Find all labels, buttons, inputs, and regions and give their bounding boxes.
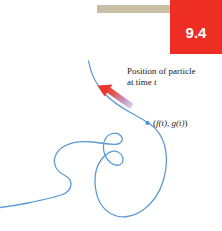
- position-caption-prefix: at time: [127, 77, 154, 87]
- direction-arrow: [98, 85, 134, 110]
- position-caption-line-1: Position of particle: [127, 66, 196, 77]
- parametric-curve-figure: [0, 0, 222, 231]
- point-label-g-argument: (t): [176, 118, 185, 128]
- point-marker-dot: [145, 121, 149, 125]
- position-caption-line-2: at time t: [127, 77, 196, 88]
- point-coordinate-label: (f(t), g(t)): [153, 118, 188, 129]
- position-caption: Position of particle at time t: [127, 66, 196, 88]
- position-caption-variable: t: [154, 77, 157, 87]
- point-label-close-paren: ): [185, 118, 188, 128]
- point-label-f-argument: (t): [159, 118, 168, 128]
- figure-page: 9.4 Position of particle at time t (f(t)…: [0, 0, 222, 231]
